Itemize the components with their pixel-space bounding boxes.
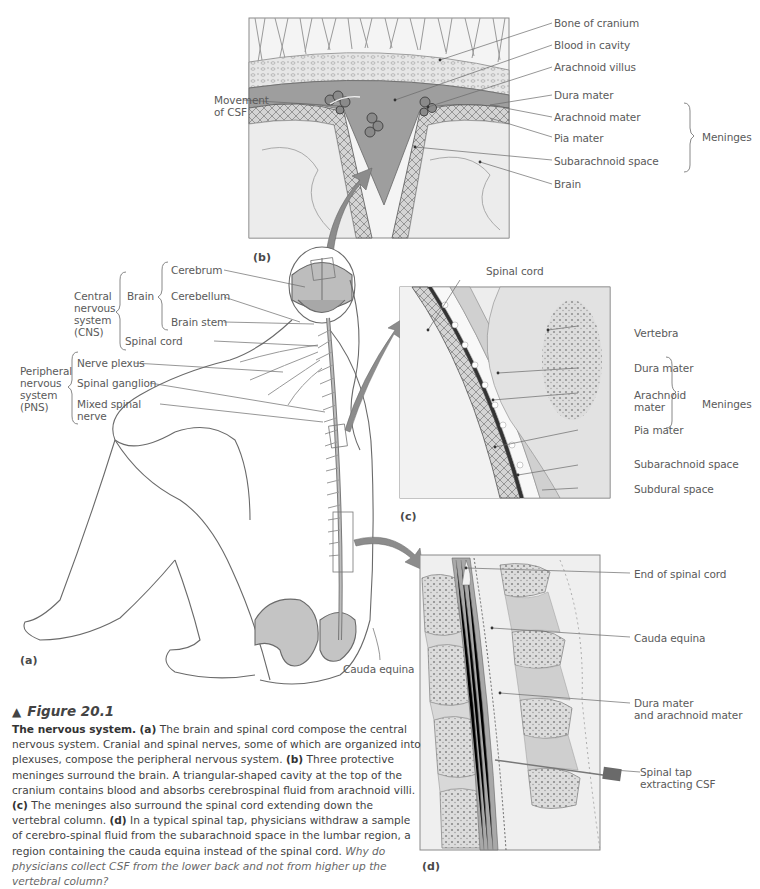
label-brain-stem: Brain stem [171,316,227,328]
label-meninges-c: Meninges [702,398,752,410]
label-mixed-spinal-nerve: Mixed spinal nerve [77,398,141,422]
label-bone-of-cranium: Bone of cranium [554,17,639,29]
label-subarachnoid-space-c: Subarachnoid space [634,458,739,470]
caption-tag-a: (a) [140,723,157,735]
caption-tag-d: (d) [109,814,126,826]
label-movement-of-csf: Movement of CSF [214,94,269,118]
label-spinal-cord-a: Spinal cord [125,335,183,347]
triangle-up-icon: ▲ [12,705,21,719]
label-brain-group: Brain [127,290,154,302]
label-cauda-equina-a: Cauda equina [343,663,414,675]
panel-b-illustration [249,18,509,265]
label-vertebra: Vertebra [634,327,678,339]
label-blood-in-cavity: Blood in cavity [554,39,630,51]
label-cerebrum: Cerebrum [171,264,222,276]
arrow-to-panel-d [354,537,423,570]
caption-title: The nervous system. [12,723,136,735]
panel-tag-c: (c) [400,510,417,523]
label-dura-arachnoid-d: Dura mater and arachnoid mater [634,697,742,721]
panel-d-illustration [420,555,622,850]
caption-tag-c: (c) [12,799,28,811]
caption-tag-b: (b) [286,753,303,765]
figure-caption: The nervous system. (a) The brain and sp… [12,722,422,889]
label-brain-b: Brain [554,178,581,190]
label-cns-group: Central nervous system (CNS) [74,290,116,338]
figure-number: Figure 20.1 [27,703,114,719]
label-spinal-tap: Spinal tap extracting CSF [640,766,715,790]
panel-c-illustration [400,287,610,498]
label-end-of-spinal-cord: End of spinal cord [634,568,726,580]
label-subarachnoid-space-b: Subarachnoid space [554,155,659,167]
label-pns-group: Peripheral nervous system (PNS) [20,365,72,413]
label-dura-mater-b: Dura mater [554,89,613,101]
label-subdural-space: Subdural space [634,483,714,495]
label-dura-mater-c: Dura mater [634,362,693,374]
label-meninges-b: Meninges [702,131,752,143]
label-spinal-ganglion: Spinal ganglion [77,377,156,389]
panel-tag-a: (a) [20,654,37,667]
label-pia-mater-c: Pia mater [634,424,683,436]
panel-tag-b: (b) [253,251,271,264]
label-arachnoid-mater-b: Arachnoid mater [554,111,640,123]
label-arachnoid-mater-c: Arachnoid mater [634,389,686,413]
panel-tag-d: (d) [422,860,440,873]
label-spinal-cord-c: Spinal cord [486,265,544,277]
figure-heading: ▲Figure 20.1 [12,703,114,719]
arrow-to-panel-c [345,318,404,432]
label-arachnoid-villus: Arachnoid villus [554,61,636,73]
label-cauda-equina-d: Cauda equina [634,632,705,644]
label-pia-mater-b: Pia mater [554,132,603,144]
label-cerebellum: Cerebellum [171,290,230,302]
label-nerve-plexus: Nerve plexus [77,357,145,369]
